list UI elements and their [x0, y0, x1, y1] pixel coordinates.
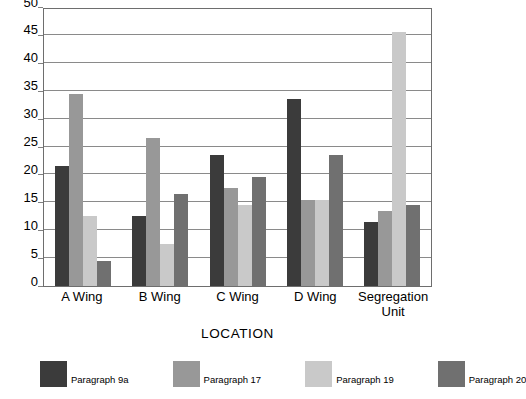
y-tick-label: 50: [12, 0, 38, 8]
x-axis-category-labels: A WingB WingC WingD WingSegregation Unit: [43, 289, 432, 329]
bar[interactable]: [174, 194, 188, 286]
legend-item-label: Paragraph 20: [469, 375, 526, 385]
bar[interactable]: [378, 211, 392, 286]
bar[interactable]: [238, 205, 252, 286]
x-axis-category-label: C Wing: [199, 289, 277, 329]
bar[interactable]: [364, 222, 378, 286]
legend-item[interactable]: Paragraph 17: [173, 361, 262, 387]
x-axis-category-label: A Wing: [43, 289, 121, 329]
legend-color-swatch: [305, 361, 332, 387]
legend-color-swatch: [173, 361, 200, 387]
x-axis-category-label: B Wing: [121, 289, 199, 329]
bar[interactable]: [301, 200, 315, 286]
bar-group: [44, 9, 121, 286]
legend-item[interactable]: Paragraph 19: [305, 361, 394, 387]
bar[interactable]: [392, 32, 406, 286]
x-axis-category-label: Segregation Unit: [354, 289, 432, 329]
y-tick-label: 15: [12, 190, 38, 203]
bar[interactable]: [252, 177, 266, 286]
bar-group: [199, 9, 276, 286]
y-tick-label: 45: [12, 23, 38, 36]
bar-group: [354, 9, 431, 286]
x-axis-title: LOCATION: [43, 326, 432, 341]
legend-item-label: Paragraph 19: [336, 375, 394, 385]
bar[interactable]: [83, 216, 97, 286]
legend-color-swatch: [40, 361, 67, 387]
legend-item-label: Paragraph 9a: [71, 375, 129, 385]
y-tick-label: 5: [12, 246, 38, 259]
bar[interactable]: [329, 155, 343, 286]
legend-item[interactable]: Paragraph 20: [438, 361, 526, 387]
bar[interactable]: [146, 138, 160, 286]
plot-area: 05101520253035404550 A WingB WingC WingD…: [0, 0, 448, 310]
bar[interactable]: [55, 166, 69, 286]
legend-item[interactable]: Paragraph 9a: [40, 361, 129, 387]
bar[interactable]: [210, 155, 224, 286]
y-tick-label: 20: [12, 162, 38, 175]
bar[interactable]: [315, 200, 329, 286]
bar[interactable]: [224, 188, 238, 286]
y-tick-label: 25: [12, 135, 38, 148]
bar[interactable]: [160, 244, 174, 286]
y-tick-label: 35: [12, 79, 38, 92]
y-axis: 05101520253035404550: [12, 8, 38, 287]
bar[interactable]: [132, 216, 146, 286]
legend-color-swatch: [438, 361, 465, 387]
bar-groups: [44, 9, 431, 286]
y-tick-label: 10: [12, 218, 38, 231]
bar[interactable]: [406, 205, 420, 286]
bar-group: [121, 9, 198, 286]
bar[interactable]: [287, 99, 301, 286]
x-axis-category-label: D Wing: [276, 289, 354, 329]
legend-item-label: Paragraph 17: [204, 375, 262, 385]
y-tick-label: 0: [12, 274, 38, 287]
plot-frame: [43, 8, 432, 287]
bar-group: [276, 9, 353, 286]
y-tick-label: 30: [12, 107, 38, 120]
chart-legend: Paragraph 9aParagraph 17Paragraph 19Para…: [40, 357, 440, 391]
y-tick-label: 40: [12, 51, 38, 64]
bar[interactable]: [97, 261, 111, 286]
bar[interactable]: [69, 94, 83, 287]
